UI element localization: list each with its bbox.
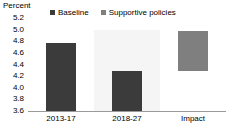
bar-2013-17[interactable]	[46, 43, 76, 111]
x-axis-tick-labels: 2013-172018-27Impact	[28, 113, 226, 128]
legend-swatch-supportive-policies	[101, 10, 106, 15]
x-axis-line	[28, 111, 226, 112]
y-tick-label: 4.2	[13, 72, 24, 80]
legend-swatch-baseline	[50, 10, 55, 15]
y-tick-label: 4.0	[13, 84, 24, 92]
legend-item-baseline[interactable]: Baseline	[50, 8, 89, 17]
y-tick-label: 5.0	[13, 26, 24, 34]
bar-impact[interactable]	[178, 31, 208, 71]
x-tick-label: 2013-17	[46, 113, 75, 125]
percent-bar-chart: Percent Baseline Supportive policies 5.2…	[0, 0, 229, 130]
y-tick-label: 3.8	[13, 95, 24, 103]
y-tick-label: 4.4	[13, 61, 24, 69]
legend-item-supportive-policies[interactable]: Supportive policies	[101, 8, 176, 17]
plot-area	[28, 18, 226, 111]
y-axis-title: Percent	[3, 1, 31, 11]
legend-label-baseline: Baseline	[58, 8, 89, 17]
y-tick-label: 4.8	[13, 37, 24, 45]
bar-2018-27[interactable]	[112, 71, 142, 111]
chart-category-2018-27	[94, 18, 160, 111]
y-tick-label: 4.6	[13, 49, 24, 57]
y-tick-label: 3.6	[13, 107, 24, 115]
y-tick-label: 5.2	[13, 14, 24, 22]
chart-legend: Baseline Supportive policies	[50, 8, 176, 17]
x-tick-label: Impact	[181, 113, 205, 125]
chart-category-impact	[160, 18, 226, 111]
chart-category-2013-17	[28, 18, 94, 111]
legend-label-supportive-policies: Supportive policies	[109, 8, 176, 17]
y-axis-tick-labels: 5.25.04.84.64.44.24.03.83.6	[0, 18, 26, 111]
x-tick-label: 2018-27	[112, 113, 141, 125]
